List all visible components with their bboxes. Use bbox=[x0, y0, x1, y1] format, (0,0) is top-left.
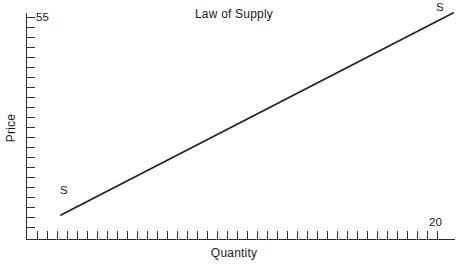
x-axis-label: Quantity bbox=[134, 246, 334, 260]
supply-curve bbox=[0, 0, 456, 267]
y-axis-ticks bbox=[27, 17, 35, 229]
chart-title: Law of Supply bbox=[134, 7, 334, 21]
supply-curve-start-label: S bbox=[60, 184, 68, 196]
x-axis-ticks bbox=[37, 231, 444, 239]
y-axis-label: Price bbox=[4, 88, 18, 168]
x-axis-line bbox=[26, 239, 455, 240]
x-axis-max-tick-label: 20 bbox=[429, 216, 442, 228]
y-axis-max-tick-label: 55 bbox=[36, 11, 49, 23]
supply-chart: Law of Supply 55 20 Price Quantity S S bbox=[0, 0, 456, 267]
supply-curve-end-label: S bbox=[436, 1, 444, 13]
